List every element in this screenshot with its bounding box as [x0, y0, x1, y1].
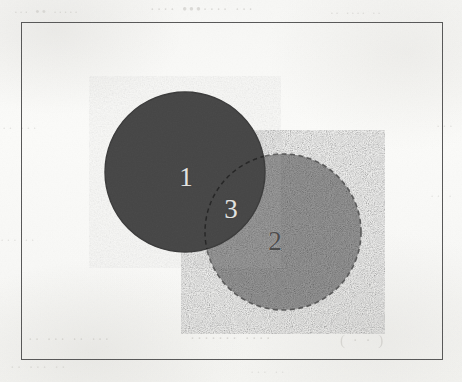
- intersection-label: 3: [224, 196, 238, 223]
- ghost-text-top-1: ··· •• ·····: [14, 4, 80, 20]
- ghost-text-bottom-5: ··· ··: [250, 364, 287, 380]
- figure-border: [21, 22, 443, 360]
- scanned-figure-page: ··· •• ····· ···· •••···· ··· ·· ···· ··…: [0, 0, 462, 382]
- set-two-label: 2: [268, 228, 282, 255]
- ghost-text-bottom-4: ·· ··· ··: [10, 360, 68, 376]
- set-one-label: 1: [179, 164, 193, 191]
- ghost-text-top-3: ·· ···· ··: [330, 5, 383, 21]
- ghost-text-top-2: ···· •••···· ···: [150, 2, 255, 18]
